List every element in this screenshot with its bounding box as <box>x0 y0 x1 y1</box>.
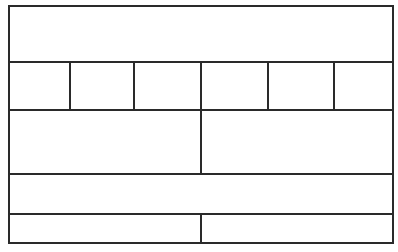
row-2-cell-3 <box>135 63 200 109</box>
row-3-cell-1 <box>10 111 200 173</box>
row-2-cell-6 <box>335 63 392 109</box>
row-2-cell-4 <box>202 63 267 109</box>
row-5-cell-1 <box>10 215 200 242</box>
row-1-cell-1 <box>10 7 392 61</box>
row-2-cell-1 <box>10 63 69 109</box>
grid-diagram <box>0 0 398 252</box>
row-4-cell-1 <box>10 175 392 213</box>
row-5-cell-2 <box>202 215 392 242</box>
row-2-cell-5 <box>269 63 333 109</box>
row-3-cell-2 <box>202 111 392 173</box>
row-2-cell-2 <box>71 63 133 109</box>
